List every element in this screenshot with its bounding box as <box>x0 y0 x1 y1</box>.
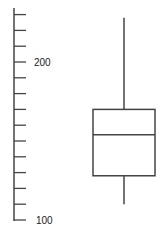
box-plot-chart: 200 100 <box>0 0 165 237</box>
y-axis: 200 100 <box>14 8 53 226</box>
iqr-box <box>93 109 155 175</box>
box-series <box>93 18 155 204</box>
y-tick-label-100: 100 <box>36 215 53 226</box>
y-tick-label-200: 200 <box>34 57 51 68</box>
y-axis-ticks <box>14 15 26 220</box>
